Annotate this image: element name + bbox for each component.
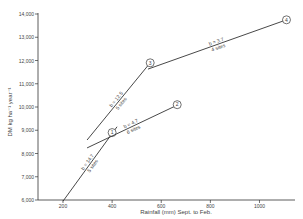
marker-label: 3 [149,60,152,66]
chart-canvas: 6,0007,0008,0009,00010,00011,00012,00013… [0,0,303,219]
slope-annotation: b = 3.74 sites [208,36,227,53]
x-tick-label: 200 [59,203,68,209]
series-group: b = 14.75 sites1b = 4.76 sites2b = 12.55… [63,16,290,201]
slope-annotation: b = 4.76 sites [122,117,141,135]
y-tick-label: 8,000 [21,151,34,157]
x-tick-label: 400 [108,203,117,209]
x-axis-label: Rainfall (mm) Sept. to Feb. [140,209,212,215]
x-tick-label: 1000 [254,203,265,209]
series-2: b = 4.76 sites2 [87,101,181,148]
y-tick-label: 9,000 [21,127,34,133]
marker-label: 4 [285,17,288,23]
regression-chart: 6,0007,0008,0009,00010,00011,00012,00013… [0,0,303,219]
marker-label: 1 [111,129,114,135]
y-tick-label: 10,000 [19,104,35,110]
y-tick-label: 7,000 [21,174,34,180]
y-axis-label: DM kg ha⁻¹ year⁻¹ [7,87,13,136]
marker-label: 2 [176,101,179,107]
slope-annotation: b = 12.55 sites [108,90,129,112]
axes: 6,0007,0008,0009,00010,00011,00012,00013… [19,11,295,209]
slope-annotation: b = 14.75 sites [79,153,100,175]
y-tick-label: 12,000 [19,58,35,64]
y-tick-label: 11,000 [19,81,34,87]
y-tick-label: 6,000 [21,197,34,203]
y-tick-label: 13,000 [19,34,35,40]
y-tick-label: 14,000 [19,11,35,17]
series-4: b = 3.74 sites4 [148,16,291,69]
series-3: b = 12.55 sites3 [87,59,154,140]
